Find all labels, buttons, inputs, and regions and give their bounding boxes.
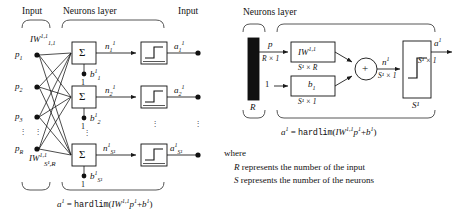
weight-to-sum-arrow xyxy=(335,52,352,62)
right-bias-one: 1 xyxy=(265,80,269,89)
legend-line-S: S represents the number of the neurons xyxy=(234,176,374,185)
weight-block-label: IW1,1 xyxy=(298,46,316,57)
sum-plus-symbol: + xyxy=(362,63,368,74)
transfer-box-1 xyxy=(141,42,167,64)
p-dims-label: R × 1 xyxy=(262,55,279,63)
bias-node-S xyxy=(82,174,87,179)
bias-one-S: 1 xyxy=(81,181,85,189)
input-bar-label-R: R xyxy=(250,103,256,112)
weight-block-dims: S¹ × R xyxy=(298,64,317,72)
left-header-output-input: Input xyxy=(178,7,198,17)
legend-where: where xyxy=(224,149,246,158)
legend-line-R: R represents the number of the input xyxy=(234,163,365,172)
input-node-p3 xyxy=(34,114,39,119)
net-label-1: n11 xyxy=(105,40,116,53)
input-node-pR xyxy=(34,146,39,151)
output-label-a1: a11 xyxy=(174,40,185,53)
input-node-ellipsis: ... xyxy=(34,126,42,133)
output-node-a2 xyxy=(195,94,200,99)
p-signal-label: p xyxy=(268,40,273,49)
output-label-a2: a21 xyxy=(174,84,185,97)
output-node-a1 xyxy=(195,50,200,55)
weight-label-top: IW1,11,1 xyxy=(30,33,56,46)
bias-block-label: b1 xyxy=(308,80,316,91)
output-label-aS: a1S¹ xyxy=(170,142,182,155)
input-label-p1: p1 xyxy=(15,50,23,61)
input-node-p2 xyxy=(34,84,39,89)
output-node-aS xyxy=(195,152,200,157)
input-label-pR: pR xyxy=(15,144,23,155)
sum-row-ellipsis: ... xyxy=(83,127,91,134)
right-equation: a1 = hardlim(IW1,1p1+b1) xyxy=(281,126,376,138)
bias-block-dims: S¹ × 1 xyxy=(298,98,317,106)
right-bottom-brace-layer xyxy=(277,110,435,118)
left-bottom-brace-input xyxy=(22,182,50,190)
left-top-brace-layer xyxy=(62,20,164,28)
transfer-block-label: S¹ xyxy=(412,101,419,110)
transfer-block-right xyxy=(403,41,431,98)
net-label-S: n1S¹ xyxy=(103,142,115,155)
input-label-p2: p2 xyxy=(15,82,23,93)
bias-to-sum-arrow xyxy=(335,76,352,86)
network-diagram-canvas xyxy=(0,0,458,224)
bias-label-S: b1S¹ xyxy=(90,170,102,183)
bias-node-1 xyxy=(82,72,87,77)
input-ellipsis: ... xyxy=(19,126,27,133)
weight-connections xyxy=(39,53,71,155)
net-label-2: n21 xyxy=(105,84,116,97)
left-bottom-brace-layer xyxy=(62,182,164,190)
weight-label-bottom-sub: S¹,R xyxy=(44,161,56,168)
transfer-box-S xyxy=(141,144,167,166)
right-net-dims: S¹ × 1 xyxy=(378,72,397,80)
transfer-box-2 xyxy=(141,86,167,108)
right-header-neurons-layer: Neurons layer xyxy=(243,8,297,18)
sum-symbol-2: Σ xyxy=(79,91,85,102)
left-equation: a1 = hardlim(IW1,1p1+b1) xyxy=(57,198,152,210)
sum-symbol-S: Σ xyxy=(79,149,85,160)
net-arrows xyxy=(96,53,136,155)
output-row-ellipsis: ... xyxy=(194,118,202,125)
left-header-neurons-layer: Neurons layer xyxy=(63,7,117,17)
transfer-row-ellipsis: ... xyxy=(151,118,159,125)
left-header-input: Input xyxy=(22,7,42,17)
output-lines xyxy=(167,53,196,155)
input-vector-bar xyxy=(248,38,259,100)
left-top-brace-input xyxy=(22,20,50,28)
right-output-dims: S¹ × 1 xyxy=(418,57,437,65)
bias-one-1: 1 xyxy=(81,79,85,87)
right-net-label: n1 xyxy=(382,56,390,67)
input-node-p1 xyxy=(34,52,39,57)
bias-node-2 xyxy=(82,116,87,121)
right-top-brace-input xyxy=(243,24,265,32)
sum-symbol-1: Σ xyxy=(79,47,85,58)
bias-label-2: b12 xyxy=(90,112,101,125)
right-top-brace-layer xyxy=(277,24,435,32)
bias-label-1: b11 xyxy=(90,68,101,81)
right-output-label: a1 xyxy=(434,37,442,48)
